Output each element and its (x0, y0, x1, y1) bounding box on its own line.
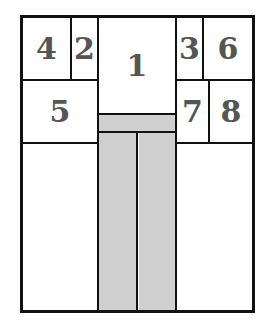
cell-1-label: 1 (127, 48, 148, 83)
cell-1: 1 (99, 18, 175, 113)
cell-4-label: 4 (36, 31, 57, 66)
outer-right (252, 15, 255, 313)
cell-3-label: 3 (179, 31, 200, 66)
right-lower-line (175, 142, 255, 144)
floor-plan-diagram: 4 2 1 3 6 5 7 8 (0, 0, 272, 332)
room1-bottom (97, 113, 177, 115)
gray-corridor-left (99, 133, 137, 312)
cell-3: 3 (177, 18, 202, 79)
cell-8: 8 (210, 81, 252, 142)
left-lower-line (20, 142, 99, 144)
cell-6-label: 6 (218, 31, 239, 66)
cell-8-label: 8 (221, 94, 242, 129)
center-divider (136, 132, 138, 313)
cell-5-label: 5 (50, 94, 71, 129)
cell-6: 6 (204, 18, 252, 79)
cell-7-label: 7 (182, 94, 203, 129)
cell-2-label: 2 (74, 31, 95, 66)
gray-corridor-right (139, 133, 176, 312)
cell-7: 7 (177, 81, 208, 142)
band-bottom (97, 131, 177, 133)
cell-2: 2 (72, 18, 97, 79)
cell-4: 4 (23, 18, 70, 79)
cell-5: 5 (23, 81, 97, 142)
